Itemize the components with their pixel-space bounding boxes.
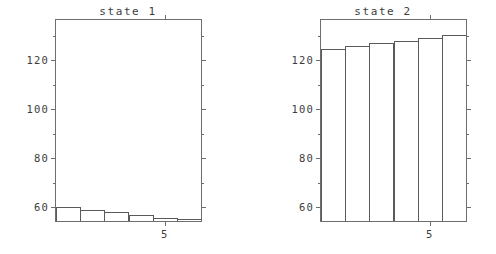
y-tick-minor-right xyxy=(201,134,204,135)
y-tick-minor-right xyxy=(466,36,469,37)
y-tick xyxy=(51,60,56,61)
bar xyxy=(418,38,443,221)
y-tick-right xyxy=(466,109,471,110)
panel-state1: state 1 1201008060 5 xyxy=(0,0,248,254)
y-tick xyxy=(51,207,56,208)
y-tick xyxy=(316,207,321,208)
y-tick-minor-right xyxy=(201,183,204,184)
x-tick-label: 5 xyxy=(426,228,434,240)
y-tick-minor xyxy=(318,134,321,135)
y-tick-right xyxy=(466,207,471,208)
y-tick-minor xyxy=(318,85,321,86)
y-tick xyxy=(51,109,56,110)
x-tick-label: 5 xyxy=(161,228,169,240)
plot-frame-state1: 1201008060 5 xyxy=(55,19,202,222)
y-tick-right xyxy=(201,109,206,110)
y-tick xyxy=(316,109,321,110)
bar-series-state1 xyxy=(56,20,201,221)
bar-series-state2 xyxy=(321,20,466,221)
y-tick-minor xyxy=(53,85,56,86)
bar xyxy=(104,212,129,221)
y-tick-label: 80 xyxy=(34,152,49,164)
y-tick-minor-right xyxy=(466,85,469,86)
y-tick-minor-right xyxy=(466,183,469,184)
bar xyxy=(177,219,201,221)
x-tick-top xyxy=(430,15,431,20)
bar xyxy=(345,46,370,221)
x-tick xyxy=(430,221,431,226)
bar xyxy=(394,41,419,221)
y-tick xyxy=(316,158,321,159)
y-tick-minor xyxy=(318,183,321,184)
y-tick-minor xyxy=(53,36,56,37)
y-tick-label: 120 xyxy=(26,54,49,66)
panel-title-state2: state 2 xyxy=(248,5,496,18)
bar xyxy=(129,215,154,221)
y-tick-label: 60 xyxy=(299,201,314,213)
bar xyxy=(369,43,394,221)
y-tick xyxy=(316,60,321,61)
bar xyxy=(80,210,105,221)
panel-title-state1: state 1 xyxy=(0,5,248,18)
y-tick-minor xyxy=(53,183,56,184)
y-tick xyxy=(51,158,56,159)
bar xyxy=(321,49,346,221)
y-tick-right xyxy=(466,158,471,159)
plot-frame-state2: 1201008060 5 xyxy=(320,19,467,222)
x-tick xyxy=(165,221,166,226)
y-tick-label: 120 xyxy=(291,54,314,66)
y-tick-minor-right xyxy=(201,36,204,37)
figure-canvas: state 1 1201008060 5 state 2 1201008060 … xyxy=(0,0,496,254)
y-tick-right xyxy=(466,60,471,61)
y-tick-right xyxy=(201,207,206,208)
panel-state2: state 2 1201008060 5 xyxy=(248,0,496,254)
y-tick-minor-right xyxy=(201,85,204,86)
bar xyxy=(442,35,466,221)
x-tick-top xyxy=(165,15,166,20)
y-tick-minor xyxy=(318,36,321,37)
y-tick-label: 100 xyxy=(291,103,314,115)
y-tick-minor xyxy=(53,134,56,135)
y-tick-label: 100 xyxy=(26,103,49,115)
y-tick-right xyxy=(201,158,206,159)
y-tick-minor-right xyxy=(466,134,469,135)
y-tick-right xyxy=(201,60,206,61)
bar xyxy=(56,207,81,221)
y-tick-label: 80 xyxy=(299,152,314,164)
y-tick-label: 60 xyxy=(34,201,49,213)
